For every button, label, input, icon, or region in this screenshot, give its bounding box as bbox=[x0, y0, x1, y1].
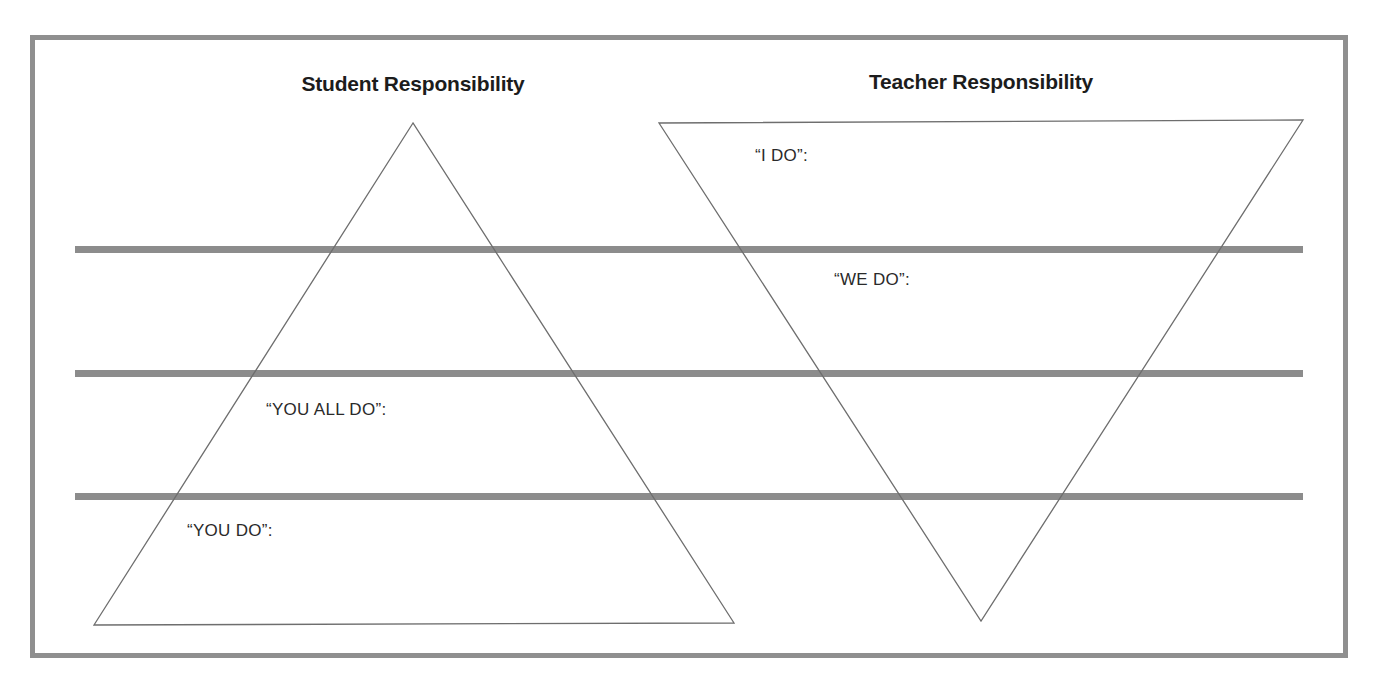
i-do-label: “I DO”: bbox=[755, 146, 808, 166]
student-responsibility-heading: Student Responsibility bbox=[301, 72, 524, 96]
teacher-responsibility-heading: Teacher Responsibility bbox=[869, 70, 1093, 94]
we-do-label: “WE DO”: bbox=[834, 270, 910, 290]
divider-bar-3 bbox=[75, 493, 1303, 500]
divider-bar-2 bbox=[75, 370, 1303, 377]
you-all-do-label: “YOU ALL DO”: bbox=[266, 400, 386, 420]
gradual-release-diagram bbox=[0, 0, 1375, 681]
divider-bar-1 bbox=[75, 246, 1303, 253]
you-do-label: “YOU DO”: bbox=[187, 521, 273, 541]
